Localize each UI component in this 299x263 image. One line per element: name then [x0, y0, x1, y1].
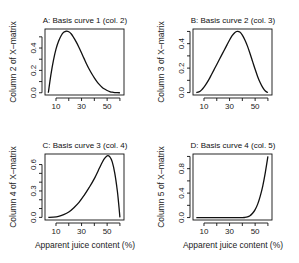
y-tick-label: 0.8	[177, 163, 186, 175]
panel-title: B: Basis curve 2 (col. 3)	[191, 16, 276, 25]
x-tick-label: 10	[52, 102, 61, 111]
y-axis-label: Column 4 of X–matrix	[8, 145, 18, 227]
x-tick-label: 30	[225, 227, 234, 236]
basis-curves-figure: A: Basis curve 1 (col. 2) Column 2 of X–…	[0, 0, 299, 263]
y-tick-label: 0.4	[177, 38, 186, 50]
x-axis-label: Apparent juice content (%)	[183, 240, 283, 250]
x-tick-label: 50	[251, 227, 260, 236]
plot-box	[193, 154, 272, 220]
basis-curve-line	[196, 31, 268, 92]
y-tick-label: 0.0	[29, 211, 38, 223]
y-axis-label: Column 5 of X–matrix	[156, 145, 166, 227]
x-tick-label: 50	[251, 102, 260, 111]
basis-curve-line	[48, 31, 120, 93]
y-tick-label: 0.6	[29, 158, 38, 170]
x-tick-label: 50	[103, 102, 112, 111]
panel-title: D: Basis curve 4 (col. 5)	[191, 141, 276, 150]
x-tick-label: 10	[200, 102, 209, 111]
panel-title: A: Basis curve 1 (col. 2)	[43, 16, 128, 25]
basis-curve-line	[48, 156, 120, 218]
x-tick-label: 30	[225, 102, 234, 111]
x-tick-label: 30	[77, 102, 86, 111]
x-axis-label: Apparent juice content (%)	[35, 240, 135, 250]
panel-title: C: Basis curve 3 (col. 4)	[43, 141, 128, 150]
panel-d: D: Basis curve 4 (col. 5) Column 5 of X–…	[156, 141, 283, 250]
y-tick-label: 0.2	[29, 64, 38, 76]
x-tick-label: 50	[103, 227, 112, 236]
panel-c: C: Basis curve 3 (col. 4) Column 4 of X–…	[8, 141, 135, 250]
panel-a: A: Basis curve 1 (col. 2) Column 2 of X–…	[8, 16, 128, 111]
x-tick-label: 10	[52, 227, 61, 236]
y-tick-label: 0.0	[177, 86, 186, 98]
basis-curve-line	[196, 156, 268, 217]
y-tick-label: 0.3	[29, 185, 38, 197]
y-tick-label: 0.4	[177, 187, 186, 199]
panel-b: B: Basis curve 2 (col. 3) Column 3 of X–…	[156, 16, 276, 111]
y-axis-label: Column 2 of X–matrix	[8, 20, 18, 102]
plot-box	[45, 29, 124, 95]
y-axis-label: Column 3 of X–matrix	[156, 20, 166, 102]
x-tick-label: 30	[77, 227, 86, 236]
y-tick-label: 0.0	[29, 87, 38, 99]
y-tick-label: 0.0	[177, 211, 186, 223]
y-tick-label: 0.4	[29, 42, 38, 54]
x-tick-label: 10	[200, 227, 209, 236]
y-tick-label: 0.2	[177, 62, 186, 74]
